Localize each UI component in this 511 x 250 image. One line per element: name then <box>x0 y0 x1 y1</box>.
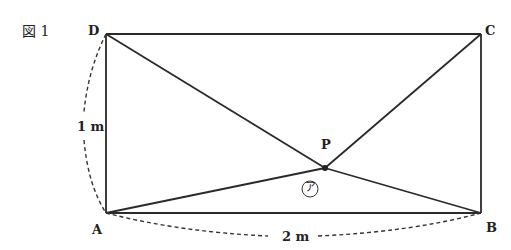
point-P-dot <box>322 165 328 171</box>
label-C: C <box>485 24 495 37</box>
width-label: 2 m <box>282 230 309 243</box>
height-dimension-arc-bottom <box>84 140 106 213</box>
segment-DP <box>106 34 325 168</box>
label-D: D <box>88 24 99 37</box>
label-B: B <box>486 221 497 234</box>
segment-AP <box>106 168 325 213</box>
angle-marker-label: ア <box>305 182 316 193</box>
width-dimension-arc-left <box>106 213 268 236</box>
label-P: P <box>321 138 331 151</box>
height-dimension-arc-top <box>84 34 106 112</box>
segment-CP <box>325 34 481 168</box>
height-label: 1 m <box>77 120 104 133</box>
label-A: A <box>92 223 102 236</box>
segment-BP <box>325 168 481 213</box>
width-dimension-arc-right <box>318 213 481 236</box>
